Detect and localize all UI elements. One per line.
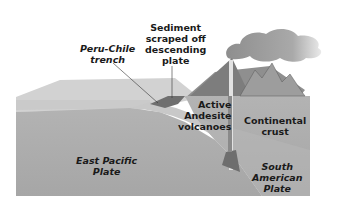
continental-crust-label: Continental crust bbox=[244, 115, 306, 137]
south-american-label: South American Plate bbox=[252, 161, 302, 194]
sediment-label-line-2: scraped off bbox=[145, 33, 206, 44]
mountain-range bbox=[240, 63, 305, 96]
continental-crust-label-line-1: Continental bbox=[244, 115, 306, 126]
south-american-label-line-2: American bbox=[252, 172, 302, 183]
volcanoes-label-line-1: Active bbox=[178, 99, 231, 110]
volcanoes-label: Active Andesite volcanoes bbox=[178, 99, 231, 132]
continental-crust-label-line-2: crust bbox=[244, 126, 306, 137]
sediment-label-line-1: Sediment bbox=[145, 22, 206, 33]
east-pacific-label-line-1: East Pacific bbox=[76, 155, 137, 166]
sediment-label-line-3: descending bbox=[145, 44, 206, 55]
subduction-diagram: Peru-Chile trench Sediment scraped off d… bbox=[0, 0, 343, 209]
sediment-label: Sediment scraped off descending plate bbox=[145, 22, 206, 66]
trench-label-line-1: Peru-Chile bbox=[80, 43, 135, 54]
trench-label: Peru-Chile trench bbox=[80, 43, 135, 65]
volcanoes-label-line-2: Andesite bbox=[178, 110, 231, 121]
volcanoes-label-line-3: volcanoes bbox=[178, 121, 231, 132]
east-pacific-label-line-2: Plate bbox=[76, 166, 137, 177]
south-american-label-line-3: Plate bbox=[252, 183, 302, 194]
smoke-plume bbox=[226, 29, 321, 62]
south-american-label-line-1: South bbox=[252, 161, 302, 172]
sediment-label-line-4: plate bbox=[145, 55, 206, 66]
trench-label-line-2: trench bbox=[80, 54, 135, 65]
east-pacific-label: East Pacific Plate bbox=[76, 155, 137, 177]
